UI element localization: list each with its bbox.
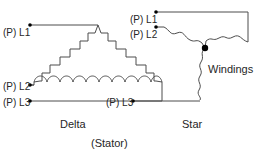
star-l1-label: (P) L1 [130,15,157,25]
delta-winding-left [34,25,98,82]
delta-title: Delta [60,119,86,130]
star-l1-lead [156,12,248,42]
delta-l3-label: (P) L3 [3,98,30,108]
figure-canvas: (P) L1 (P) L2 (P) L3 (P) L1 (P) L2 (P) L… [0,0,266,156]
windings-annotation-label: Windings [208,64,253,75]
delta-l1-label: (P) L1 [3,28,30,38]
star-l3-label: (P) L3 [106,98,133,108]
delta-l2-label: (P) L2 [3,82,30,92]
delta-l3-lead [30,82,162,101]
star-title: Star [182,119,202,130]
star-winding-right [205,36,248,48]
star-neutral-node [202,45,208,51]
stator-caption: (Stator) [91,138,128,149]
star-l2-label: (P) L2 [130,30,157,40]
delta-winding-bottom [34,76,162,82]
star-winding-bottom [198,48,205,100]
star-winding-left [164,27,205,48]
